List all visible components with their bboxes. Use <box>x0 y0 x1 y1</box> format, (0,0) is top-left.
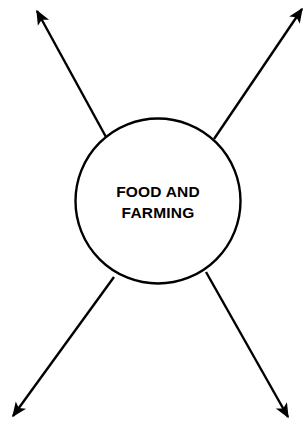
central-node-label-line-2: FARMING <box>122 204 195 221</box>
arrow-bottom-right <box>206 272 288 417</box>
arrow-bottom-left <box>13 277 114 416</box>
diagram-svg: FOOD AND FARMING <box>0 0 308 429</box>
arrow-top-left <box>37 11 106 137</box>
arrow-top-right <box>214 9 302 139</box>
central-node-circle <box>76 119 241 284</box>
central-node-label-line-1: FOOD AND <box>116 183 200 200</box>
diagram-canvas: FOOD AND FARMING <box>0 0 308 429</box>
